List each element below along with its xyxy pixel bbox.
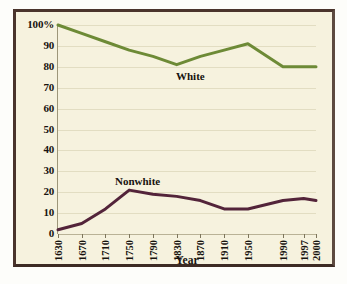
chart-figure: 100%9080706050403020100 1630167017101750… [0,0,347,284]
x-tick-1790 [153,234,154,238]
chart-frame: 100%9080706050403020100 1630167017101750… [13,9,335,267]
y-tick-label-100: 100% [27,18,54,30]
x-tick-1870 [200,234,201,238]
series-label-nonwhite: Nonwhite [115,175,160,187]
x-tick-1997 [304,234,305,238]
y-tick-label-40: 40 [43,143,54,155]
y-tick-label-0: 0 [49,227,54,239]
plot-area [58,25,316,234]
data-lines [58,25,316,234]
x-tick-1710 [105,234,106,238]
x-tick-1750 [129,234,130,238]
x-tick-1830 [177,234,178,238]
y-tick-label-50: 50 [43,123,54,135]
y-axis-labels: 100%9080706050403020100 [16,25,54,234]
y-tick-label-80: 80 [43,60,54,72]
chart-canvas: 100%9080706050403020100 1630167017101750… [16,12,332,264]
x-tick-1670 [82,234,83,238]
x-axis-ticks [58,234,316,239]
x-axis-title: Year [58,254,316,264]
x-tick-1990 [283,234,284,238]
y-tick-label-20: 20 [43,185,54,197]
series-label-white: White [176,70,205,82]
line-nonwhite [58,190,316,230]
y-tick-label-30: 30 [43,164,54,176]
y-tick-label-60: 60 [43,102,54,114]
x-tick-2000 [316,234,317,238]
line-white [58,25,316,67]
x-tick-1950 [248,234,249,238]
x-tick-1630 [58,234,59,238]
y-tick-label-10: 10 [43,206,54,218]
y-tick-label-70: 70 [43,81,54,93]
x-tick-1910 [224,234,225,238]
y-tick-label-90: 90 [43,39,54,51]
